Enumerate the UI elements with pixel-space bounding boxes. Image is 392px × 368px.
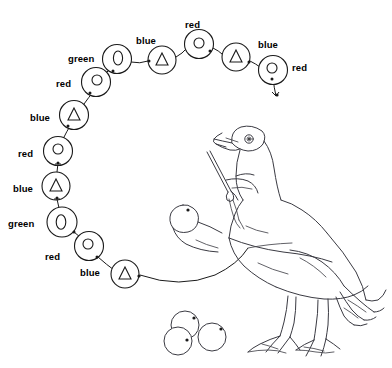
node-label-red-3: red xyxy=(185,20,200,30)
diagram-canvas: green blue red blue red red blue red blu… xyxy=(0,0,392,368)
node-label-red-11: red xyxy=(45,252,60,262)
node-label-blue-12: blue xyxy=(80,268,100,278)
node-green-10[interactable] xyxy=(47,207,77,237)
node-label-blue-9: blue xyxy=(13,184,33,194)
goose-illustration xyxy=(170,126,386,356)
node-label-blue-2: blue xyxy=(136,36,156,46)
node-label-red-8: red xyxy=(18,149,33,159)
node-green-1[interactable] xyxy=(103,45,132,74)
node-red-8[interactable] xyxy=(44,137,73,166)
node-blue-2[interactable] xyxy=(148,46,177,74)
node-blue-4[interactable] xyxy=(222,43,251,71)
node-red-5[interactable] xyxy=(259,56,288,97)
loose-circle-2[interactable] xyxy=(164,327,192,355)
node-red-11[interactable] xyxy=(75,232,104,261)
node-red-3[interactable] xyxy=(185,30,214,59)
node-blue-12[interactable] xyxy=(111,260,141,288)
loose-circle-3[interactable] xyxy=(198,323,226,351)
node-label-green-1: green xyxy=(68,54,94,64)
diagram-svg xyxy=(0,0,392,368)
node-label-green-10: green xyxy=(8,219,34,229)
node-label-red-5: red xyxy=(292,63,307,73)
node-label-blue-7: blue xyxy=(30,113,50,123)
node-red-6[interactable] xyxy=(82,68,111,97)
node-label-blue-4: blue xyxy=(258,40,278,50)
node-blue-7[interactable] xyxy=(60,101,89,130)
node-blue-9[interactable] xyxy=(42,172,70,200)
node-label-red-6: red xyxy=(56,79,71,89)
